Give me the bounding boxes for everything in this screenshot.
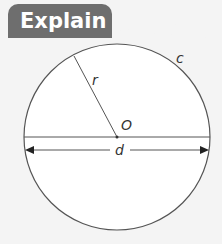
diameter-label: d — [115, 142, 124, 158]
center-label: O — [121, 117, 132, 133]
circumference-label: c — [176, 50, 184, 66]
center-point — [116, 136, 119, 139]
explain-panel: Explain r O d c — [0, 0, 222, 244]
circle-diagram: r O d c — [0, 0, 222, 244]
